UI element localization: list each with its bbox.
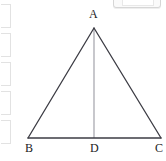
vertex-label-b: B [25, 142, 33, 154]
figure-screenshot: A B D C [0, 0, 166, 161]
geometry-figure [0, 0, 166, 161]
vertex-label-c: C [155, 142, 163, 154]
side-AC [94, 28, 161, 138]
vertex-label-d: D [90, 142, 99, 154]
side-AB [28, 28, 94, 138]
vertex-label-a: A [89, 8, 98, 20]
